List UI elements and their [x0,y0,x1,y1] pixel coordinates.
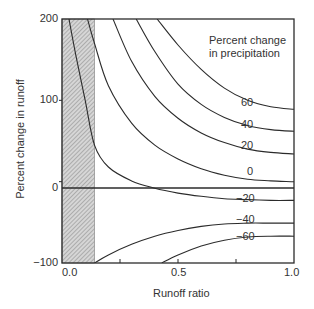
legend-title-line1: Percent change [209,34,286,47]
curve-label-neg40: −40 [236,213,255,225]
x-tick-0-5: 0.5 [171,266,186,278]
x-tick-0: 0.0 [62,266,77,278]
y-tick-0: 0 [52,181,58,193]
x-axis-title: Runoff ratio [153,287,210,299]
y-axis-title: Percent change in runoff [14,74,26,204]
curve-label-0: 0 [247,165,253,177]
y-tick-200: 200 [40,12,58,24]
legend-title: Percent change in precipitation [209,34,286,60]
curve-precip-60 [157,19,294,109]
curve-precip-neg40 [95,223,295,263]
x-tick-1: 1.0 [284,266,299,278]
legend-title-line2: in precipitation [209,47,286,60]
y-tick-neg100: −100 [33,256,58,268]
curve-label-60: 60 [241,96,253,108]
curve-label-neg60: −60 [236,230,255,242]
curve-label-neg20: −20 [236,192,255,204]
curve-precip-neg60 [162,236,294,263]
curve-label-40: 40 [241,118,253,130]
curve-label-20: 20 [241,139,253,151]
hatched-region [62,19,94,263]
y-tick-100: 100 [40,93,58,105]
runoff-sensitivity-chart: 200 100 0 −100 0.0 0.5 1.0 Runoff ratio … [0,0,314,309]
